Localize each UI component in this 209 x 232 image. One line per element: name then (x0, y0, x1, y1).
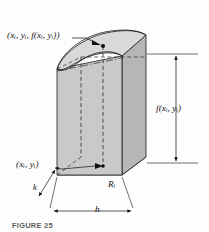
label-height: f(xᵢ, yᵢ) (156, 104, 181, 113)
dimension-extension-h-left (50, 177, 57, 208)
label-width-h: h (95, 205, 100, 214)
dimension-extension-h-right (122, 177, 133, 208)
label-point-2d: (xᵢ, yᵢ) (16, 160, 39, 169)
figure-caption: FIGURE 25 (12, 221, 53, 230)
label-region-r: Rᵢ (108, 180, 115, 189)
figure-container: (xᵢ, yᵢ, f(xᵢ, yᵢ)) f(xᵢ, yᵢ) (xᵢ, yᵢ) k… (0, 0, 209, 232)
sample-point-marker (101, 44, 105, 48)
front-face (57, 56, 122, 175)
dimension-line-k (39, 170, 55, 196)
label-point-3d: (xᵢ, yᵢ, f(xᵢ, yᵢ)) (7, 31, 60, 40)
label-depth-k: k (33, 183, 37, 192)
right-face (122, 35, 146, 175)
